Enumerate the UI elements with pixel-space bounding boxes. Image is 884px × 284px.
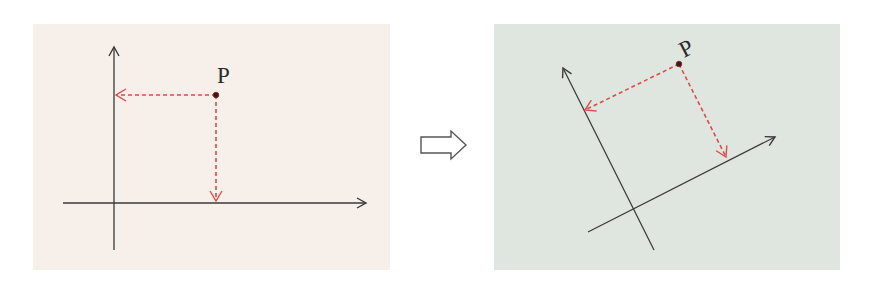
left-panel-background xyxy=(33,24,390,270)
hollow-right-arrow-icon xyxy=(421,131,466,159)
point-p-label: P xyxy=(217,63,230,88)
point-p xyxy=(676,61,682,67)
left-panel: P xyxy=(33,24,390,270)
right-panel-background xyxy=(494,24,840,270)
right-panel: P xyxy=(494,24,840,270)
point-p xyxy=(213,92,219,98)
coordinate-diagram: P P xyxy=(0,0,884,284)
